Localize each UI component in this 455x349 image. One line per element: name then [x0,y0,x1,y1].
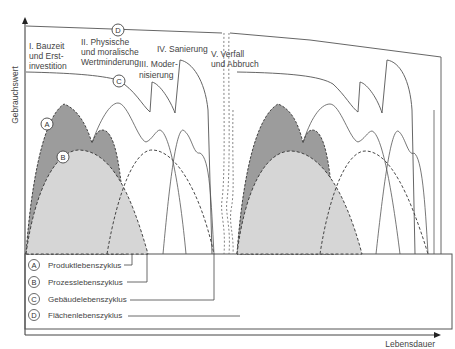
phase-ii-line1: II. Physische [81,37,129,47]
cluster-right [237,104,434,254]
svg-text:Gebäudelebenszyklus: Gebäudelebenszyklus [48,295,127,304]
phase-v-line2: und Abbruch [211,59,259,69]
phase-ii-line3: Wertminderung [81,57,139,67]
svg-text:A: A [44,120,49,129]
x-axis-arrow-icon [434,332,441,338]
legend-item-a: A Produktlebenszyklus [29,254,133,271]
svg-text:C: C [31,295,37,304]
y-axis-label: Gebrauchswert [10,66,20,124]
cluster-left [26,103,214,254]
phase-i-line2: und Erst- [29,51,64,61]
marker-b: B [57,151,69,163]
y-axis-arrow-icon [22,17,28,24]
phase-v-line1: V. Verfall [211,49,244,59]
svg-text:C: C [116,77,122,86]
phase-i-line1: I. Bauzeit [29,41,65,51]
phase-iv-line1: IV. Sanierung [157,44,208,54]
marker-a: A [41,118,53,130]
legend-item-d: D Flächenlebenszyklus [29,310,241,321]
svg-text:D: D [31,311,37,320]
legend-item-b: B Prozesslebenszyklus [29,254,148,288]
svg-text:A: A [31,261,36,270]
x-axis-label: Lebensdauer [385,339,435,349]
svg-text:Prozesslebenszyklus: Prozesslebenszyklus [48,278,123,287]
svg-text:D: D [115,26,121,35]
phase-iii-line2: nisierung [139,70,174,80]
lifecycle-diagram: D C A B Gebrauchswert I. Bauzeit und Ers… [0,0,455,349]
phase-i-line3: investition [29,61,67,71]
svg-text:Produktlebenszyklus: Produktlebenszyklus [48,261,121,270]
svg-text:B: B [31,278,36,287]
svg-text:Flächenlebenszyklus: Flächenlebenszyklus [48,311,122,320]
svg-text:B: B [60,153,65,162]
phase-iii-line1: III. Moder- [139,59,178,69]
phase-ii-line2: und moralische [81,47,139,57]
marker-c: C [113,75,125,87]
legend: A Produktlebenszyklus B Prozesslebenszyk… [29,254,241,321]
marker-d: D [112,24,124,36]
